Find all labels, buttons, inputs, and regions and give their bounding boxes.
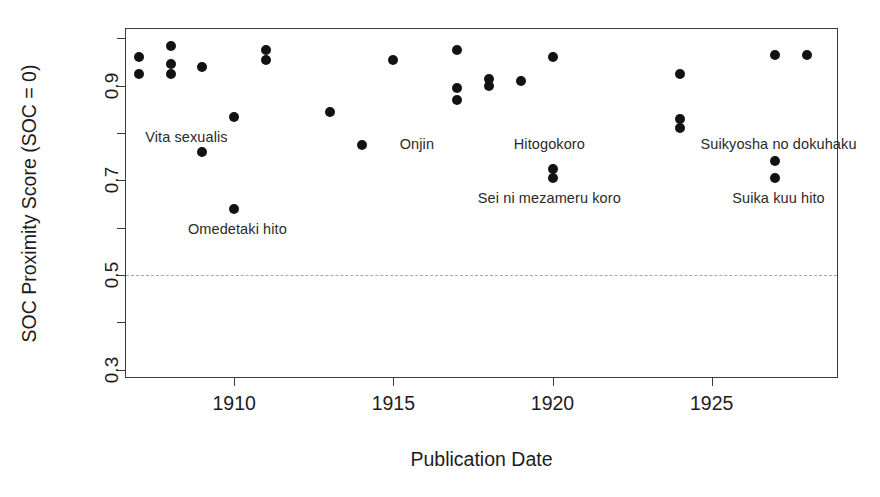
- point-annotation: Hitogokoro: [514, 136, 585, 152]
- point-annotation: Sei ni mezameru koro: [478, 190, 621, 206]
- point-annotation: Suikyosha no dokuhaku: [700, 136, 856, 152]
- point-annotation: Vita sexualis: [145, 129, 227, 145]
- y-axis-tick-label: 0.5: [101, 275, 123, 301]
- scatter-chart-figure: SOC Proximity Score (SOC = 0) Vita sexua…: [0, 0, 880, 497]
- x-axis-tick: [234, 377, 235, 386]
- x-axis-tick-label: 1920: [531, 392, 574, 415]
- x-axis-tick: [393, 377, 394, 386]
- y-axis-title-text: SOC Proximity Score (SOC = 0): [19, 64, 42, 342]
- y-axis-tick: [117, 38, 126, 39]
- x-axis-title: Publication Date: [125, 448, 838, 471]
- y-axis-tick: [117, 133, 126, 134]
- y-axis-tick-label: 0.7: [101, 180, 123, 206]
- point-annotation: Suika kuu hito: [732, 190, 825, 206]
- y-axis-tick-label: 0.9: [101, 86, 123, 112]
- y-axis-tick: [117, 322, 126, 323]
- x-axis-tick-label: 1915: [372, 392, 415, 415]
- point-annotation: Omedetaki hito: [188, 221, 287, 237]
- plot-area: Vita sexualisOmedetaki hitoOnjinHitogoko…: [125, 28, 838, 378]
- point-annotations-layer: Vita sexualisOmedetaki hitoOnjinHitogoko…: [126, 29, 837, 377]
- x-axis-tick-label: 1910: [213, 392, 256, 415]
- y-axis-title: SOC Proximity Score (SOC = 0): [10, 28, 50, 378]
- x-axis-tick: [553, 377, 554, 386]
- x-axis-tick: [712, 377, 713, 386]
- x-axis-tick-label: 1925: [690, 392, 733, 415]
- y-axis-tick-label: 0.3: [101, 370, 123, 396]
- point-annotation: Onjin: [400, 136, 434, 152]
- y-axis-tick: [117, 228, 126, 229]
